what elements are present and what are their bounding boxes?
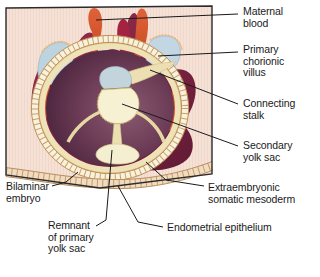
label-connecting-stalk: Connecting stalk xyxy=(243,98,295,121)
label-endometrial-epithelium: Endometrial epithelium xyxy=(167,222,272,234)
secondary-yolk-sac xyxy=(98,88,139,124)
yolk-stalk xyxy=(112,124,122,146)
endometrial-epithelium-leader xyxy=(118,186,163,227)
label-extraembryonic-somatic-mesoderm: Extraembryonic somatic mesoderm xyxy=(208,182,295,205)
label-primary-chorionic-villus: Primary chorionic villus xyxy=(243,44,284,79)
label-secondary-yolk-sac: Secondary yolk sac xyxy=(243,140,292,163)
label-maternal-blood: Maternal blood xyxy=(243,6,283,29)
label-remnant-of-primary-yolk-sac: Remnant of primary yolk sac xyxy=(48,220,94,255)
label-bilaminar-embryo: Bilaminar embryo xyxy=(6,181,49,204)
figure-canvas: Maternal blood Primary chorionic villus … xyxy=(0,0,320,277)
